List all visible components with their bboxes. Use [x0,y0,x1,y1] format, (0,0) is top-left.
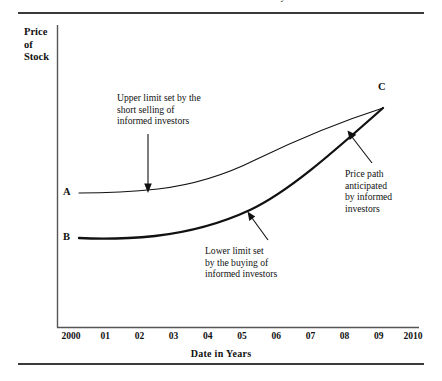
x-tick-label: 2000 [62,331,81,341]
x-tick-label: 2010 [404,331,423,341]
arrow-upper-limit-head [144,184,152,194]
x-tick-label: 05 [237,331,247,341]
exhibit-figure: EXHIBIT 3.4Price Limitswith short seller… [0,0,442,381]
curve-lower-limit [79,108,383,239]
x-tick-label: 03 [169,331,179,341]
arrow-lower-limit-head [248,212,256,222]
point-label-c: C [378,81,386,92]
annotation-price-path: Price path anticipated by informed inves… [345,168,392,214]
point-label-b: B [63,231,70,242]
annotation-lower-limit: Lower limit set by the buying of informe… [205,245,277,280]
x-tick-label: 09 [374,331,384,341]
arrow-lower-limit-shaft [252,218,268,240]
x-tick-label: 04 [203,331,213,341]
point-label-a: A [63,186,71,197]
x-axis-tick-labels: 20000102030405060708092010 [57,331,419,345]
x-axis-title: Date in Years [0,348,442,359]
x-tick-label: 06 [271,331,281,341]
y-axis-title: Price of Stock [24,26,58,64]
x-tick-label: 01 [100,331,110,341]
x-tick-label: 02 [135,331,145,341]
x-tick-label: 08 [340,331,350,341]
arrow-price-path-shaft [352,137,372,163]
x-tick-label: 07 [306,331,316,341]
annotation-upper-limit: Upper limit set by the short selling of … [117,92,201,127]
